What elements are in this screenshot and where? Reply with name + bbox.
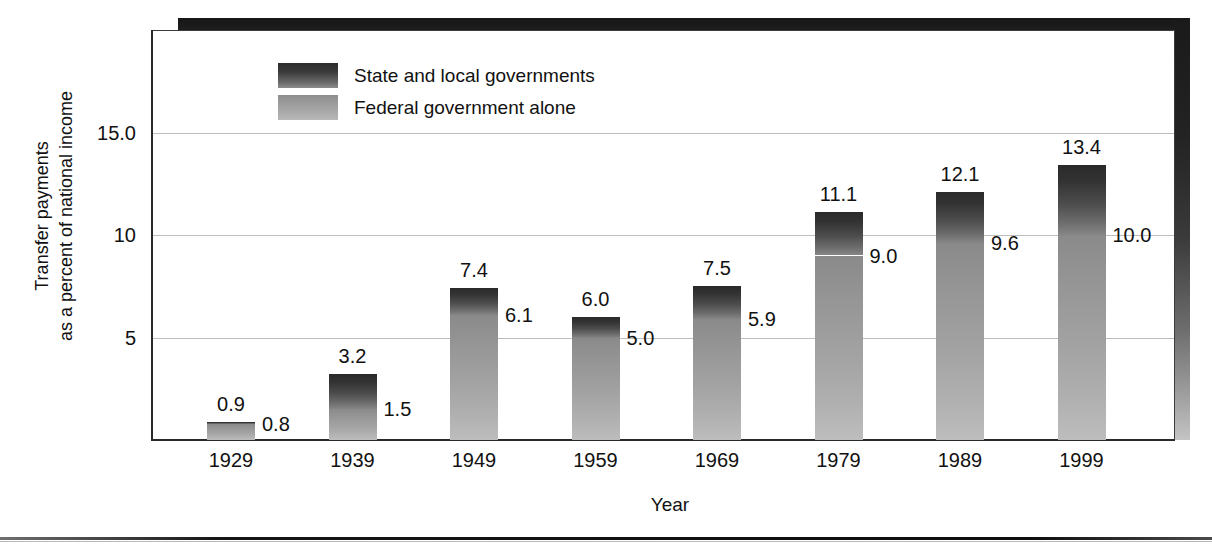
bar-federal-label: 6.1 [505,305,533,325]
x-axis-tick-label: 1939 [308,450,398,470]
bar-segment-federal[interactable] [1058,235,1106,440]
bar-federal-label: 9.6 [991,233,1019,253]
x-axis-tick-label: 1949 [429,450,519,470]
x-axis-title: Year [0,494,1212,516]
y-axis-line [151,30,153,441]
x-axis-line [151,439,1175,441]
bar-total-label: 12.1 [925,164,995,184]
x-axis-tick-label: 1969 [672,450,762,470]
x-axis-tick-label: 1929 [186,450,276,470]
bar-federal-label: 1.5 [384,399,412,419]
bar-segment-federal[interactable] [936,243,984,440]
page-bottom-rule [0,537,1212,540]
page-bottom-rule-secondary [0,541,1212,542]
bar-segment-state-and-local[interactable] [450,288,498,315]
gridline [152,338,1174,339]
bar-total-label: 6.0 [561,289,631,309]
bar-segment-federal[interactable] [693,319,741,440]
bar-segment-state-and-local[interactable] [329,374,377,409]
x-axis-tick-label: 1999 [1037,450,1127,470]
gridline [152,133,1174,134]
bar-total-label: 0.9 [196,394,266,414]
bar-segment-federal[interactable] [572,338,620,441]
y-axis-tick-label: 15.0 [78,123,136,143]
bar-total-label: 11.1 [804,184,874,204]
bar-segment-federal[interactable] [329,409,377,440]
bar-segment-federal[interactable] [815,256,863,441]
y-axis-title: Transfer paymentsas a percent of nationa… [30,76,78,356]
bar-segment-state-and-local[interactable] [815,212,863,255]
x-axis-tick-label: 1989 [915,450,1005,470]
bar-total-label: 13.4 [1047,137,1117,157]
transfer-payments-bar-chart: 15.0105 Transfer paymentsas a percent of… [0,0,1212,547]
y-axis-tick-label: 5 [78,328,136,348]
bar-total-label: 3.2 [318,346,388,366]
bar-federal-label: 0.8 [262,414,290,434]
y-axis-tick-label: 10 [78,225,136,245]
bar-total-label: 7.5 [682,258,752,278]
x-axis-tick-label: 1959 [551,450,641,470]
bar-segment-federal[interactable] [207,424,255,440]
bar-federal-label: 10.0 [1113,225,1152,245]
x-axis-tick-label: 1979 [794,450,884,470]
y-axis-title-line1: Transfer payments [32,141,52,290]
x-axis-title-text: Year [651,494,689,515]
bar-federal-label: 5.0 [627,328,655,348]
bar-segment-state-and-local[interactable] [936,192,984,243]
y-axis-title-line2: as a percent of national income [56,91,76,341]
bar-federal-label: 5.9 [748,309,776,329]
bar-federal-label: 9.0 [870,246,898,266]
bar-segment-federal[interactable] [450,315,498,440]
bar-segment-state-and-local[interactable] [693,286,741,319]
bar-segment-state-and-local[interactable] [572,317,620,338]
plot-shadow-right [1174,18,1190,440]
gridline [152,235,1174,236]
bar-segment-state-and-local[interactable] [1058,165,1106,235]
bar-total-label: 7.4 [439,260,509,280]
